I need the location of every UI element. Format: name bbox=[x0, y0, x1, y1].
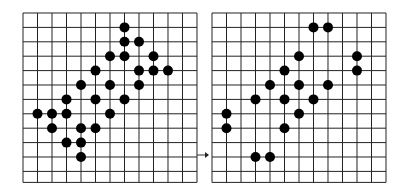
grid-dot bbox=[91, 94, 101, 104]
grid-dot bbox=[91, 123, 101, 133]
grid-after-svg bbox=[211, 12, 387, 183]
grid-dot bbox=[105, 51, 115, 61]
grid-dot bbox=[76, 80, 86, 90]
grid-dot bbox=[308, 22, 318, 32]
grid-dot bbox=[76, 138, 86, 148]
grid-dot bbox=[280, 94, 290, 104]
grid-dot bbox=[62, 138, 72, 148]
grid-dot bbox=[352, 66, 362, 76]
grid-dot bbox=[134, 80, 144, 90]
grid-dot bbox=[76, 123, 86, 133]
grid-dot bbox=[76, 152, 86, 162]
grid-dot bbox=[265, 80, 275, 90]
grid-dot bbox=[119, 37, 129, 47]
grid-dot bbox=[323, 80, 333, 90]
grid-dot bbox=[280, 66, 290, 76]
grid-dot bbox=[62, 94, 72, 104]
grid-dot bbox=[62, 109, 72, 119]
grid-dot bbox=[134, 66, 144, 76]
grid-dot bbox=[294, 80, 304, 90]
grid-dot bbox=[148, 51, 158, 61]
grid-dot bbox=[119, 51, 129, 61]
grid-dot bbox=[251, 94, 261, 104]
grid-dot bbox=[323, 22, 333, 32]
arrow-right-icon bbox=[196, 150, 210, 160]
grid-before bbox=[22, 12, 198, 183]
grid-dot bbox=[352, 51, 362, 61]
grid-dot bbox=[148, 66, 158, 76]
grid-dot bbox=[47, 109, 57, 119]
grid-dot bbox=[251, 152, 261, 162]
grid-dot bbox=[222, 109, 232, 119]
grid-dot bbox=[134, 37, 144, 47]
grid-dot bbox=[119, 22, 129, 32]
grid-dot bbox=[294, 109, 304, 119]
grid-dot bbox=[91, 66, 101, 76]
grid-dot bbox=[280, 123, 290, 133]
grid-dot bbox=[308, 94, 318, 104]
grid-dot bbox=[222, 123, 232, 133]
grid-dot bbox=[294, 51, 304, 61]
grid-dot bbox=[33, 109, 43, 119]
grid-dot bbox=[119, 94, 129, 104]
grid-after bbox=[211, 12, 387, 183]
grid-dot bbox=[163, 66, 173, 76]
grid-dot bbox=[105, 109, 115, 119]
grid-dot bbox=[47, 123, 57, 133]
grid-before-svg bbox=[22, 12, 198, 183]
grid-dot bbox=[265, 152, 275, 162]
grid-dot bbox=[105, 80, 115, 90]
